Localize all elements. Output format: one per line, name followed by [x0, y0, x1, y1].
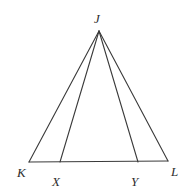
segment-group	[29, 31, 168, 162]
vertex-label-y: Y	[131, 175, 138, 188]
geometry-figure: J K X Y L	[0, 0, 191, 190]
segment-kl	[29, 161, 168, 162]
segment-jk	[29, 31, 99, 162]
segment-jl	[99, 31, 168, 161]
segment-jx	[60, 31, 99, 162]
segment-jy	[99, 31, 138, 162]
vertex-label-k: K	[17, 166, 26, 179]
vertex-label-j: J	[94, 12, 100, 25]
vertex-label-l: L	[171, 165, 178, 178]
vertex-label-x: X	[52, 175, 60, 188]
triangle-diagram-canvas	[0, 0, 191, 190]
